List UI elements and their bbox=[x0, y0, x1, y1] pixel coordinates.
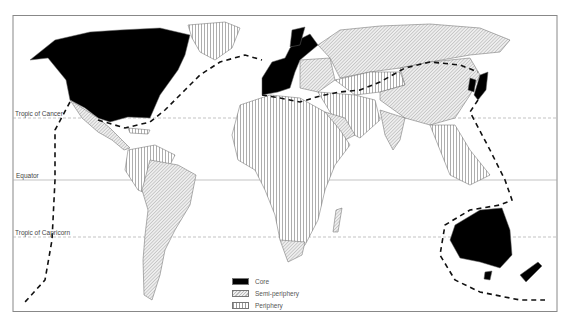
legend-item-semi-periphery: Semi-periphery bbox=[232, 288, 299, 298]
legend-item-core: Core bbox=[232, 276, 299, 286]
periphery-swatch-icon bbox=[232, 302, 249, 309]
core-swatch-icon bbox=[232, 278, 249, 285]
semi-periphery-swatch-icon bbox=[232, 290, 249, 297]
label-tropic-of-cancer: Tropic of Cancer bbox=[15, 110, 63, 117]
world-map bbox=[0, 0, 569, 322]
label-equator: Equator bbox=[16, 172, 39, 179]
map-legend: Core Semi-periphery Periphery bbox=[232, 276, 299, 312]
label-tropic-of-capricorn: Tropic of Capricorn bbox=[15, 229, 70, 236]
legend-item-periphery: Periphery bbox=[232, 300, 299, 310]
